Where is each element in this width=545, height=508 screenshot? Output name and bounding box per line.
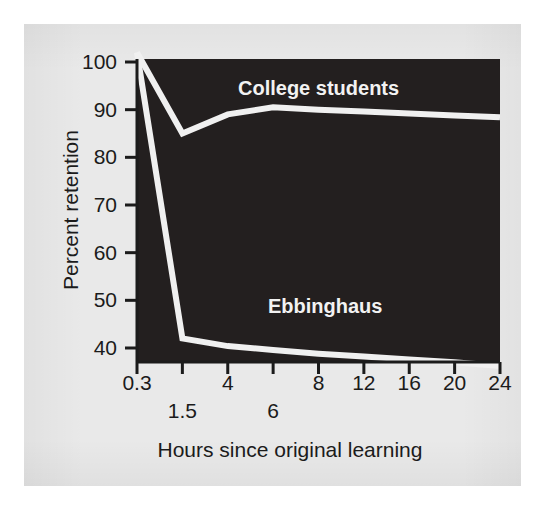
y-tick-label: 80 [94, 145, 117, 168]
y-tick-label: 40 [94, 336, 117, 359]
x-tick-label: 4 [222, 371, 234, 394]
y-tick-label: 50 [94, 288, 117, 311]
x-tick-label: 1.5 [168, 399, 197, 422]
x-axis-title: Hours since original learning [158, 438, 423, 461]
y-tick-label: 90 [94, 98, 117, 121]
series-label-ebbinghaus: Ebbinghaus [268, 295, 382, 317]
x-tick-label: 16 [398, 371, 421, 394]
y-tick-label: 60 [94, 241, 117, 264]
x-axis-ticks: 0.31.546812162024 [122, 362, 512, 422]
x-tick-label: 20 [443, 371, 466, 394]
y-axis-title: Percent retention [59, 130, 82, 290]
x-tick-label: 8 [313, 371, 325, 394]
y-axis-ticks: 100908070605040 [82, 50, 137, 359]
y-tick-label: 70 [94, 193, 117, 216]
series-label-college-students: College students [238, 77, 399, 99]
retention-line-chart: 100908070605040 0.31.546812162024 Percen… [0, 0, 545, 508]
x-tick-label: 6 [267, 399, 279, 422]
x-tick-label: 0.3 [122, 371, 151, 394]
x-tick-label: 24 [488, 371, 512, 394]
figure-root: 100908070605040 0.31.546812162024 Percen… [0, 0, 545, 508]
x-tick-label: 12 [352, 371, 375, 394]
y-tick-label: 100 [82, 50, 117, 73]
